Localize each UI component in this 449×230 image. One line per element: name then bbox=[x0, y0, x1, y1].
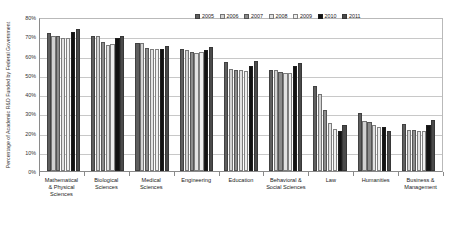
y-axis-tick-label: 60% bbox=[16, 54, 36, 60]
legend-item: 2011 bbox=[342, 13, 361, 19]
y-axis-tick-label: 70% bbox=[16, 34, 36, 40]
legend-label: 2009 bbox=[300, 13, 312, 19]
bar bbox=[56, 36, 60, 171]
bar bbox=[269, 70, 273, 171]
y-axis-tick-label: 20% bbox=[16, 131, 36, 137]
category-label: MedicalSciences bbox=[129, 177, 174, 227]
federal-funding-bar-chart: Percentage of Academic R&D Funded by Fed… bbox=[0, 0, 449, 230]
bar bbox=[288, 73, 292, 171]
bar bbox=[135, 43, 139, 171]
y-axis-tick-labels: 80%70%60%50%40%30%20%10%0% bbox=[16, 18, 38, 172]
category-label: BiologicalSciences bbox=[84, 177, 129, 227]
legend-label: 2010 bbox=[325, 13, 337, 19]
category-tick bbox=[443, 172, 444, 176]
bar bbox=[387, 131, 391, 171]
legend-label: 2007 bbox=[251, 13, 263, 19]
bar-group bbox=[174, 19, 218, 171]
legend-item: 2005 bbox=[195, 13, 214, 19]
y-axis-tick-label: 30% bbox=[16, 111, 36, 117]
bar bbox=[115, 38, 119, 171]
bar bbox=[185, 50, 189, 171]
bar bbox=[342, 125, 346, 171]
category-label: Humanities bbox=[353, 177, 398, 227]
legend-item: 2009 bbox=[293, 13, 312, 19]
y-axis-title: Percentage of Academic R&D Funded by Fed… bbox=[0, 0, 16, 190]
legend-item: 2010 bbox=[318, 13, 337, 19]
legend-swatch-icon bbox=[293, 14, 298, 19]
bar-group bbox=[219, 19, 263, 171]
legend-label: 2005 bbox=[202, 13, 214, 19]
bar bbox=[140, 43, 144, 171]
bar-group bbox=[397, 19, 441, 171]
bar bbox=[431, 120, 435, 171]
y-axis-tick-label: 40% bbox=[16, 92, 36, 98]
category-tick bbox=[308, 172, 309, 176]
legend-swatch-icon bbox=[342, 14, 347, 19]
bar-group bbox=[308, 19, 352, 171]
bar bbox=[71, 32, 75, 171]
bar bbox=[165, 46, 169, 171]
bar bbox=[110, 44, 114, 171]
bar bbox=[51, 36, 55, 171]
category-label: Education bbox=[219, 177, 264, 227]
y-axis-tick-label: 10% bbox=[16, 150, 36, 156]
bar bbox=[47, 33, 51, 171]
bar bbox=[333, 129, 337, 171]
y-axis-tick-label: 0% bbox=[16, 169, 36, 175]
y-axis-tick-label: 50% bbox=[16, 73, 36, 79]
bar bbox=[120, 36, 124, 171]
bar bbox=[160, 49, 164, 171]
x-axis-category-labels: Mathematical& PhysicalSciencesBiological… bbox=[39, 177, 443, 227]
bar bbox=[382, 127, 386, 171]
legend-item: 2008 bbox=[269, 13, 288, 19]
legend-swatch-icon bbox=[195, 14, 200, 19]
bar bbox=[278, 72, 282, 171]
bar-group bbox=[263, 19, 307, 171]
category-tick bbox=[219, 172, 220, 176]
bar bbox=[313, 86, 317, 171]
bar bbox=[249, 66, 253, 171]
bar bbox=[367, 122, 371, 171]
category-label: Law bbox=[308, 177, 353, 227]
bar bbox=[318, 94, 322, 171]
bar bbox=[199, 52, 203, 171]
bar bbox=[101, 42, 105, 171]
bar bbox=[328, 123, 332, 171]
bar-group bbox=[41, 19, 85, 171]
bar bbox=[180, 49, 184, 171]
bar bbox=[224, 62, 228, 171]
bar bbox=[274, 70, 278, 171]
bar bbox=[96, 36, 100, 171]
bar bbox=[372, 125, 376, 171]
bar bbox=[229, 69, 233, 171]
plot-area bbox=[39, 18, 443, 172]
legend-item: 2007 bbox=[244, 13, 263, 19]
bar bbox=[417, 131, 421, 171]
bar bbox=[338, 131, 342, 171]
category-tick bbox=[353, 172, 354, 176]
bar bbox=[362, 121, 366, 171]
category-tick-marks bbox=[39, 172, 443, 176]
bar bbox=[426, 125, 430, 171]
bar bbox=[155, 49, 159, 171]
legend-item: 2006 bbox=[220, 13, 239, 19]
category-tick bbox=[129, 172, 130, 176]
legend-label: 2008 bbox=[276, 13, 288, 19]
category-tick bbox=[263, 172, 264, 176]
bars-layer bbox=[40, 19, 442, 171]
legend-swatch-icon bbox=[318, 14, 323, 19]
bar bbox=[91, 36, 95, 171]
legend-swatch-icon bbox=[220, 14, 225, 19]
bar bbox=[61, 38, 65, 171]
bar bbox=[209, 47, 213, 171]
legend-label: 2006 bbox=[227, 13, 239, 19]
bar bbox=[377, 127, 381, 171]
bar bbox=[412, 130, 416, 171]
bar bbox=[244, 71, 248, 171]
bar bbox=[234, 70, 238, 171]
bar bbox=[150, 49, 154, 171]
bar-group bbox=[352, 19, 396, 171]
category-tick bbox=[39, 172, 40, 176]
bar bbox=[283, 73, 287, 171]
bar bbox=[145, 48, 149, 171]
